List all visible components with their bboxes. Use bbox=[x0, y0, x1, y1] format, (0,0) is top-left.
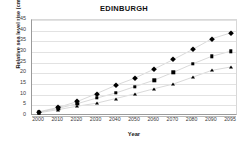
series-line-central bbox=[39, 51, 231, 112]
x-tick-label-2020: 2020 bbox=[71, 117, 83, 122]
y-tick-label-5: 5 bbox=[23, 102, 26, 107]
y-axis-ticks: 051015202530354045 bbox=[0, 19, 29, 115]
data-point-low-2090 bbox=[210, 69, 214, 72]
data-point-central-2080 bbox=[191, 62, 194, 65]
x-axis-ticks: 2000201020202030204020502060207020802090… bbox=[31, 117, 237, 129]
gridline-45 bbox=[32, 20, 236, 21]
x-tick-label-2080: 2080 bbox=[186, 117, 198, 122]
x-tick-label-2070: 2070 bbox=[167, 117, 179, 122]
data-point-low-2010 bbox=[56, 108, 60, 111]
data-point-central-2060 bbox=[152, 78, 155, 81]
data-point-central-2070 bbox=[172, 71, 175, 74]
data-point-low-2050 bbox=[133, 92, 137, 95]
data-point-low-2095 bbox=[229, 65, 233, 68]
data-point-central-2030 bbox=[95, 96, 98, 99]
data-point-central-2090 bbox=[210, 55, 213, 58]
gridline-20 bbox=[32, 73, 236, 74]
series-lines bbox=[32, 20, 238, 116]
y-tick-label-20: 20 bbox=[20, 70, 26, 75]
y-tick-label-30: 30 bbox=[20, 48, 26, 53]
plot-area bbox=[31, 19, 237, 115]
series-line-high bbox=[39, 33, 231, 112]
chart-title: EDINBURGH bbox=[0, 4, 248, 13]
data-point-central-2040 bbox=[114, 91, 117, 94]
chart-container: EDINBURGH Relative sea level rise (cm) 0… bbox=[0, 0, 248, 151]
data-point-low-2040 bbox=[114, 97, 118, 100]
gridline-35 bbox=[32, 41, 236, 42]
y-tick-label-10: 10 bbox=[20, 91, 26, 96]
x-tick-label-2095: 2095 bbox=[224, 117, 236, 122]
x-tick-label-2010: 2010 bbox=[51, 117, 63, 122]
x-tick-label-2040: 2040 bbox=[109, 117, 121, 122]
x-tick-label-2030: 2030 bbox=[90, 117, 102, 122]
x-tick-label-2000: 2000 bbox=[32, 117, 44, 122]
gridline-25 bbox=[32, 63, 236, 64]
y-tick-label-35: 35 bbox=[20, 38, 26, 43]
data-point-low-2020 bbox=[75, 105, 79, 108]
data-point-low-2000 bbox=[37, 111, 41, 114]
y-tick-label-0: 0 bbox=[23, 112, 26, 117]
data-point-low-2030 bbox=[95, 102, 99, 105]
data-point-low-2080 bbox=[191, 76, 195, 79]
y-tick-label-40: 40 bbox=[20, 27, 26, 32]
data-point-low-2070 bbox=[171, 83, 175, 86]
x-tick-label-2060: 2060 bbox=[147, 117, 159, 122]
gridline-40 bbox=[32, 31, 236, 32]
data-point-central-2050 bbox=[133, 85, 136, 88]
y-tick-label-15: 15 bbox=[20, 80, 26, 85]
x-tick-label-2090: 2090 bbox=[205, 117, 217, 122]
y-tick-label-25: 25 bbox=[20, 59, 26, 64]
data-point-low-2060 bbox=[152, 87, 156, 90]
gridline-5 bbox=[32, 105, 236, 106]
x-axis-title: Year bbox=[31, 131, 237, 137]
gridline-30 bbox=[32, 52, 236, 53]
x-tick-label-2050: 2050 bbox=[128, 117, 140, 122]
y-tick-label-45: 45 bbox=[20, 16, 26, 21]
data-point-central-2095 bbox=[229, 49, 232, 52]
